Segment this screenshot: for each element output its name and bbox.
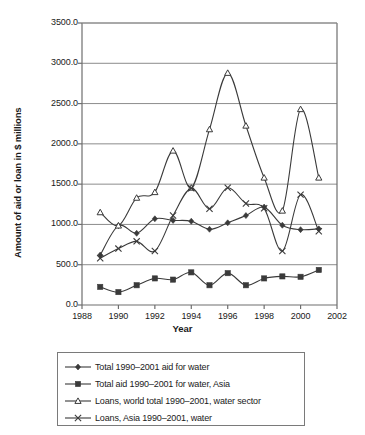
y-tick-label: 1500.0 <box>24 178 78 188</box>
marker-triangle <box>297 106 303 112</box>
legend-item[interactable]: Total 1990–2001 aid for water <box>64 358 304 375</box>
marker-diamond <box>243 213 248 219</box>
marker-triangle <box>134 195 140 201</box>
legend-marker-triangle-icon <box>64 394 92 408</box>
marker-square <box>98 284 103 289</box>
marker-triangle <box>97 209 103 215</box>
series-1 <box>98 204 322 258</box>
marker-square <box>134 283 139 288</box>
marker-triangle <box>225 70 231 76</box>
legend-label: Total aid 1990–2001 for water, Asia <box>95 379 230 389</box>
legend-label: Loans, world total 1990–2001, water sect… <box>95 396 261 406</box>
marker-square <box>207 283 212 288</box>
legend-marker-cross-icon <box>64 411 92 425</box>
y-tick-label: 3000.0 <box>24 57 78 67</box>
marker-triangle <box>261 175 267 181</box>
marker-square <box>152 276 157 281</box>
legend-label: Total 1990–2001 aid for water <box>95 362 209 372</box>
marker-square <box>280 274 285 279</box>
series-2 <box>98 267 322 294</box>
y-tick-label: 3500.0 <box>24 17 78 27</box>
y-tick-label: 2500.0 <box>24 98 78 108</box>
legend-marker-square-icon <box>64 377 92 391</box>
marker-square <box>316 267 321 272</box>
legend-item[interactable]: Loans, Asia 1990–2001, water <box>64 409 304 426</box>
marker-square <box>243 283 248 288</box>
marker-diamond <box>134 230 139 236</box>
x-tick-label: 2002 <box>317 311 357 321</box>
legend-item[interactable]: Total aid 1990–2001 for water, Asia <box>64 375 304 392</box>
marker-triangle <box>243 123 249 129</box>
marker-square <box>225 271 230 276</box>
series-line <box>100 270 319 292</box>
x-tick-label: 1990 <box>98 311 138 321</box>
chart-figure: Amount of aid or loan in $ millions Year… <box>0 0 365 435</box>
y-tick-label: 2000.0 <box>24 138 78 148</box>
marker-triangle <box>316 175 322 181</box>
x-tick-label: 1994 <box>171 311 211 321</box>
x-tick-label: 1998 <box>244 311 284 321</box>
y-tick-label: 500.0 <box>24 259 78 269</box>
marker-diamond <box>207 226 212 232</box>
chart-legend: Total 1990–2001 aid for waterTotal aid 1… <box>57 352 305 426</box>
legend-label: Loans, Asia 1990–2001, water <box>95 413 212 423</box>
series-4 <box>97 185 322 262</box>
y-tick-label: 1000.0 <box>24 218 78 228</box>
marker-diamond <box>189 218 194 224</box>
marker-square <box>298 274 303 279</box>
marker-square <box>116 290 121 295</box>
marker-diamond <box>152 216 157 222</box>
x-axis-title: Year <box>0 323 365 334</box>
series-line <box>100 73 319 226</box>
y-axis-title: Amount of aid or loan in $ millions <box>12 108 23 258</box>
x-tick-label: 1996 <box>208 311 248 321</box>
marker-triangle <box>279 208 285 214</box>
y-tick-label: 0.0 <box>24 299 78 309</box>
marker-square <box>170 277 175 282</box>
series-3 <box>97 70 322 228</box>
marker-triangle <box>206 126 212 132</box>
legend-marker-diamond-icon <box>64 360 92 374</box>
x-tick-label: 2000 <box>281 311 321 321</box>
marker-triangle <box>170 148 176 154</box>
x-tick-label: 1992 <box>135 311 175 321</box>
marker-square <box>262 276 267 281</box>
marker-triangle <box>152 189 158 195</box>
legend-item[interactable]: Loans, world total 1990–2001, water sect… <box>64 392 304 409</box>
x-tick-label: 1988 <box>62 311 102 321</box>
marker-diamond <box>298 227 303 233</box>
marker-square <box>75 381 80 386</box>
marker-diamond <box>75 364 80 370</box>
marker-square <box>189 270 194 275</box>
